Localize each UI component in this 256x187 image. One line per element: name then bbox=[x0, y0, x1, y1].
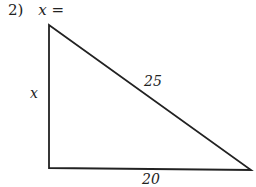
right-triangle-diagram: x 25 20 bbox=[0, 0, 256, 187]
triangle-shape bbox=[49, 25, 251, 170]
label-vertical-leg: x bbox=[30, 85, 38, 101]
label-horizontal-leg: 20 bbox=[141, 171, 160, 187]
label-hypotenuse: 25 bbox=[143, 73, 162, 89]
